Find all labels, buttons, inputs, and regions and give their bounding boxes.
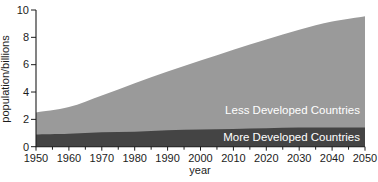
- y-tick-label: 4: [23, 86, 29, 98]
- plot-areas: [36, 16, 365, 147]
- x-tick-label: 2050: [353, 152, 377, 164]
- x-tick-label: 1950: [24, 152, 48, 164]
- x-tick-label: 2020: [254, 152, 278, 164]
- area-less-developed-countries: [36, 16, 365, 147]
- y-tick-label: 8: [23, 31, 29, 43]
- area-label-less-developed: Less Developed Countries: [225, 104, 360, 116]
- y-tick-label: 10: [17, 4, 29, 16]
- y-tick-label: 6: [23, 58, 29, 70]
- y-axis-title: population/billions: [0, 35, 11, 123]
- x-axis-title: year: [189, 164, 211, 176]
- area-label-more-developed: More Developed Countries: [223, 131, 360, 143]
- x-tick-label: 2010: [221, 152, 245, 164]
- x-tick-label: 1970: [90, 152, 114, 164]
- x-tick-label: 2040: [320, 152, 344, 164]
- x-tick-label: 2030: [287, 152, 311, 164]
- chart-canvas: 0246810195019601970198019902000201020202…: [0, 0, 378, 182]
- population-area-chart-figure: 0246810195019601970198019902000201020202…: [0, 0, 378, 182]
- x-tick-label: 1990: [155, 152, 179, 164]
- x-tick-label: 1980: [122, 152, 146, 164]
- x-tick-label: 2000: [188, 152, 212, 164]
- x-tick-label: 1960: [57, 152, 81, 164]
- y-tick-label: 2: [23, 113, 29, 125]
